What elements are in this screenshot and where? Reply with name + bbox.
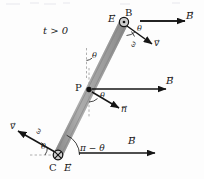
label-E-at-B: →E [108, 14, 115, 24]
label-vector-B-mid: →B [166, 76, 173, 86]
label-point-P: P [75, 83, 82, 93]
physics-figure: t > 0 →E B →B θ ω →v θ P →B θ →n →v ω θ … [0, 0, 204, 179]
point-B-marker [119, 17, 128, 26]
arrow-accent-v-bot: → [10, 120, 16, 127]
label-vector-v-top: →v [154, 39, 159, 48]
vector-v-bot-arrow [18, 131, 55, 152]
label-time-condition: t > 0 [43, 26, 68, 36]
label-theta-mid: θ [100, 92, 105, 100]
label-point-C: C [49, 163, 57, 173]
arrow-accent-n-mid: → [121, 103, 128, 110]
arrow-accent-B-mid: → [166, 74, 174, 82]
arrow-accent-E-C: → [64, 161, 72, 169]
label-vector-B-top: →B [186, 11, 193, 21]
point-C-marker [53, 150, 63, 160]
arrow-accent-B-top: → [186, 9, 194, 17]
arrow-accent-v-top: → [154, 37, 160, 44]
label-theta-top: θ [137, 25, 142, 33]
label-theta-bot: θ [41, 143, 46, 151]
arrow-accent-B-bot: → [128, 134, 136, 142]
point-P-marker [86, 87, 91, 92]
label-point-B: B [125, 8, 132, 18]
label-vector-B-bot: →B [128, 136, 135, 146]
label-E-at-C: →E [64, 163, 71, 173]
label-vector-n-mid: →n [121, 105, 127, 114]
label-theta-rod: θ [92, 52, 97, 60]
label-pi-minus-theta: π − θ [80, 144, 105, 153]
label-vector-v-bot: →v [10, 122, 15, 131]
arrow-accent-E-B: → [108, 12, 116, 20]
